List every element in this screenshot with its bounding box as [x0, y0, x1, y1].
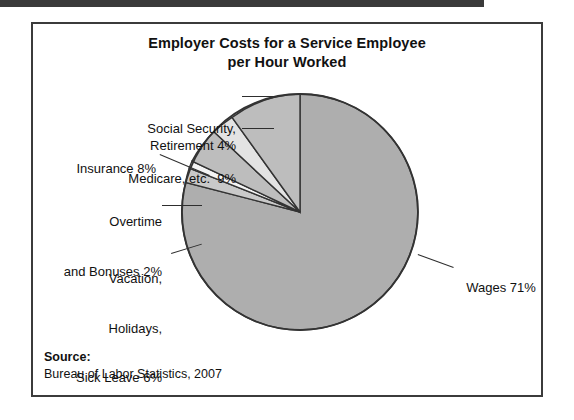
label-vacation-line-2: Holidays, — [38, 321, 162, 338]
label-overtime-line-1: Overtime — [30, 214, 162, 231]
label-insurance-text: Insurance 8% — [77, 161, 157, 176]
label-wages: Wages 71% — [459, 263, 559, 296]
label-wages-text: Wages 71% — [466, 280, 536, 295]
source-note: Source: Bureau of Labor Statistics, 2007 — [44, 349, 222, 383]
leader-line-social-security — [242, 96, 276, 97]
page-title: Employer Costs for a Service Employee pe… — [31, 34, 543, 72]
label-retirement-text: Retirement 4% — [150, 138, 236, 153]
leader-line-overtime — [162, 205, 202, 206]
scan-bar-fade — [484, 0, 574, 7]
label-vacation-line-1: Vacation, — [38, 271, 162, 288]
label-insurance: Insurance 8% — [56, 144, 156, 177]
page-scan-edge-bar — [0, 0, 574, 7]
source-text: Bureau of Labor Statistics, 2007 — [44, 366, 222, 383]
chart-title-line-2: per Hour Worked — [31, 53, 543, 72]
chart-title-line-1: Employer Costs for a Service Employee — [31, 34, 543, 53]
leader-line-retirement — [242, 128, 274, 129]
source-label: Source: — [44, 349, 222, 366]
